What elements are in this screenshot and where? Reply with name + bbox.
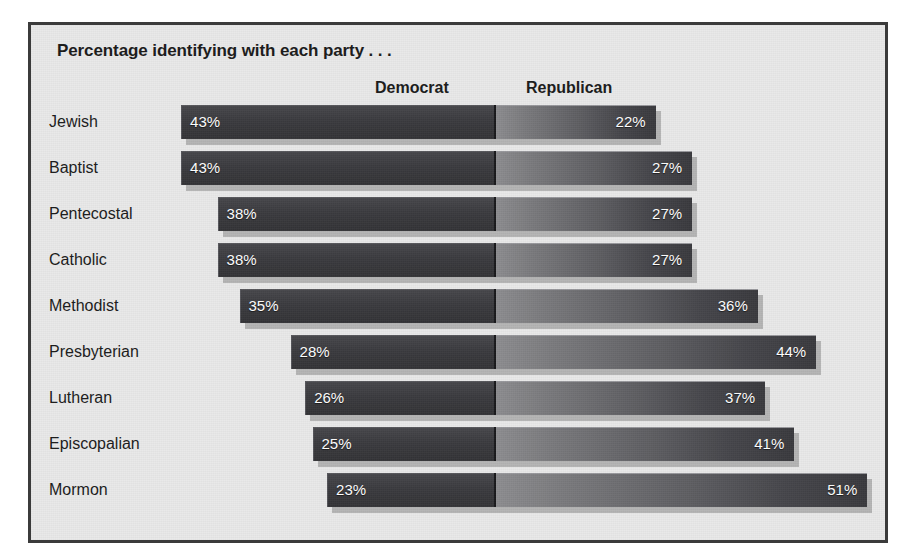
- category-label: Mormon: [49, 473, 108, 507]
- bar-segment-republican: [495, 473, 867, 507]
- value-label-democrat: 26%: [314, 381, 344, 415]
- bar-track: 26%37%: [305, 381, 765, 415]
- bar-track: 38%27%: [218, 197, 693, 231]
- bar-segment-democrat: [181, 105, 495, 139]
- bar-row: Baptist43%27%: [31, 151, 885, 185]
- bar-row: Lutheran26%37%: [31, 381, 885, 415]
- category-label: Episcopalian: [49, 427, 140, 461]
- category-label: Pentecostal: [49, 197, 133, 231]
- value-label-republican: 41%: [754, 427, 784, 461]
- bar-row: Jewish43%22%: [31, 105, 885, 139]
- value-label-republican: 27%: [652, 197, 682, 231]
- segment-divider: [494, 427, 496, 461]
- value-label-republican: 51%: [827, 473, 857, 507]
- value-label-democrat: 38%: [227, 243, 257, 277]
- value-label-democrat: 25%: [322, 427, 352, 461]
- value-label-democrat: 43%: [190, 105, 220, 139]
- chart-frame: Percentage identifying with each party .…: [28, 22, 888, 543]
- bar-row: Episcopalian25%41%: [31, 427, 885, 461]
- value-label-republican: 22%: [616, 105, 646, 139]
- bar-segment-democrat: [218, 243, 495, 277]
- value-label-republican: 27%: [652, 151, 682, 185]
- plot-area: Jewish43%22%Baptist43%27%Pentecostal38%2…: [31, 25, 885, 540]
- value-label-republican: 37%: [725, 381, 755, 415]
- category-label: Presbyterian: [49, 335, 139, 369]
- value-label-democrat: 35%: [249, 289, 279, 323]
- bar-track: 35%36%: [240, 289, 758, 323]
- bar-track: 23%51%: [327, 473, 867, 507]
- segment-divider: [494, 105, 496, 139]
- value-label-democrat: 23%: [336, 473, 366, 507]
- value-label-republican: 44%: [776, 335, 806, 369]
- category-label: Lutheran: [49, 381, 112, 415]
- value-label-democrat: 28%: [300, 335, 330, 369]
- bar-track: 43%27%: [181, 151, 692, 185]
- segment-divider: [494, 243, 496, 277]
- category-label: Baptist: [49, 151, 98, 185]
- value-label-republican: 36%: [718, 289, 748, 323]
- bar-row: Pentecostal38%27%: [31, 197, 885, 231]
- bar-segment-republican: [495, 335, 816, 369]
- segment-divider: [494, 197, 496, 231]
- segment-divider: [494, 473, 496, 507]
- bar-row: Methodist35%36%: [31, 289, 885, 323]
- bar-segment-republican: [495, 427, 794, 461]
- bar-track: 43%22%: [181, 105, 656, 139]
- segment-divider: [494, 335, 496, 369]
- bar-segment-democrat: [218, 197, 495, 231]
- category-label: Methodist: [49, 289, 118, 323]
- bar-row: Presbyterian28%44%: [31, 335, 885, 369]
- segment-divider: [494, 151, 496, 185]
- category-label: Catholic: [49, 243, 107, 277]
- segment-divider: [494, 381, 496, 415]
- bar-track: 28%44%: [291, 335, 817, 369]
- value-label-republican: 27%: [652, 243, 682, 277]
- value-label-democrat: 38%: [227, 197, 257, 231]
- bar-row: Mormon23%51%: [31, 473, 885, 507]
- bar-track: 38%27%: [218, 243, 693, 277]
- category-label: Jewish: [49, 105, 98, 139]
- value-label-democrat: 43%: [190, 151, 220, 185]
- bar-track: 25%41%: [313, 427, 795, 461]
- bar-row: Catholic38%27%: [31, 243, 885, 277]
- bar-segment-democrat: [181, 151, 495, 185]
- segment-divider: [494, 289, 496, 323]
